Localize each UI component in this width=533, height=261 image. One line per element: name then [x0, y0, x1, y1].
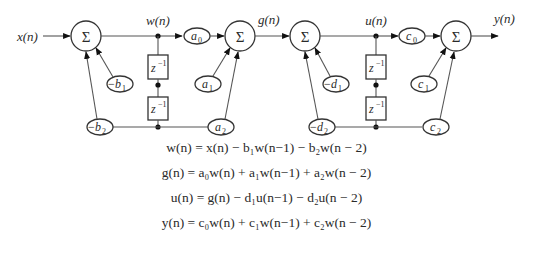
equation-y: y(n) = c₀w(n) + c₁w(n−1) + c₂w(n − 2) — [0, 215, 533, 240]
svg-text:Σ: Σ — [236, 29, 245, 45]
output-label: y(n) — [492, 11, 515, 26]
svg-text:b: b — [95, 120, 101, 134]
svg-text:−: − — [310, 120, 317, 134]
svg-text:c: c — [430, 120, 436, 134]
section-1: x(n) Σ w(n) a 0 Σ z −1 — [16, 12, 289, 136]
delay-2: z −1 — [148, 97, 168, 120]
svg-text:a: a — [215, 120, 221, 134]
u-label: u(n) — [365, 13, 387, 28]
coef-minus-b2: − b 2 — [87, 119, 113, 136]
svg-text:0: 0 — [198, 36, 202, 45]
svg-text:1: 1 — [338, 84, 342, 93]
coef-minus-d2: − d 2 — [309, 119, 335, 136]
delay-3: z −1 — [366, 55, 386, 79]
svg-text:z: z — [368, 61, 374, 75]
svg-text:d: d — [331, 77, 338, 91]
coef-a0: a 0 — [184, 28, 210, 45]
adder-1: Σ — [71, 21, 101, 51]
svg-text:1: 1 — [425, 84, 429, 93]
svg-text:d: d — [317, 120, 324, 134]
g-label: g(n) — [258, 12, 280, 27]
svg-text:z: z — [150, 102, 156, 116]
delay-4: z −1 — [366, 97, 386, 120]
svg-text:a: a — [191, 29, 197, 43]
svg-text:Σ: Σ — [452, 29, 461, 45]
adder-2: Σ — [225, 21, 255, 51]
equation-u: u(n) = g(n) − d₁u(n−1) − d₂u(n − 2) — [0, 190, 533, 215]
coef-minus-b1: − b 1 — [107, 76, 133, 93]
svg-text:Σ: Σ — [82, 29, 91, 45]
equation-g: g(n) = a₀w(n) + a₁w(n−1) + a₂w(n − 2) — [0, 165, 533, 190]
svg-text:a: a — [202, 77, 208, 91]
svg-text:−1: −1 — [158, 100, 167, 109]
adder-3: Σ — [290, 21, 320, 51]
section-2: Σ u(n) c 0 Σ y(n) z −1 z −1 — [290, 11, 515, 136]
input-label: x(n) — [16, 29, 38, 44]
svg-text:b: b — [115, 77, 121, 91]
svg-text:1: 1 — [209, 84, 213, 93]
svg-text:2: 2 — [102, 127, 106, 136]
svg-text:1: 1 — [122, 84, 126, 93]
svg-text:c: c — [406, 29, 412, 43]
svg-text:−: − — [88, 120, 95, 134]
svg-text:−1: −1 — [158, 59, 167, 68]
coef-a2: a 2 — [208, 119, 234, 136]
equations: w(n) = x(n) − b₁w(n−1) − b₂w(n − 2) g(n)… — [0, 140, 533, 240]
svg-text:−: − — [324, 77, 331, 91]
svg-text:0: 0 — [413, 36, 417, 45]
svg-text:c: c — [418, 77, 424, 91]
equation-w: w(n) = x(n) − b₁w(n−1) − b₂w(n − 2) — [0, 140, 533, 165]
coef-c2: c 2 — [423, 119, 449, 136]
coef-c1: c 1 — [411, 76, 437, 93]
svg-text:−1: −1 — [376, 100, 385, 109]
svg-text:z: z — [150, 61, 156, 75]
coef-a1: a 1 — [195, 76, 221, 93]
svg-text:2: 2 — [222, 127, 226, 136]
coef-minus-d1: − d 1 — [323, 76, 349, 93]
svg-text:2: 2 — [437, 127, 441, 136]
svg-text:−1: −1 — [376, 59, 385, 68]
adder-4: Σ — [441, 21, 471, 51]
w-label: w(n) — [146, 13, 170, 28]
coef-c0: c 0 — [399, 28, 425, 45]
svg-text:z: z — [368, 102, 374, 116]
filter-block-diagram: x(n) Σ w(n) a 0 Σ z −1 — [0, 0, 533, 150]
svg-text:2: 2 — [324, 127, 328, 136]
svg-text:Σ: Σ — [301, 29, 310, 45]
delay-1: z −1 — [148, 55, 168, 79]
svg-text:−: − — [108, 77, 115, 91]
